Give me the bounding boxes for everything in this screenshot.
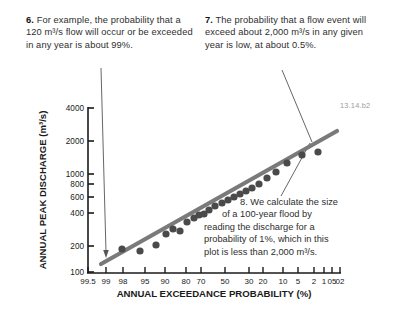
y-axis: 4000 2000 1000 800 600 400 200 100 ANNUA…: [37, 104, 94, 277]
y-tick-label-1000: 1000: [66, 170, 85, 179]
x-tick-label-80: 80: [182, 277, 191, 286]
x-tick-label-70: 70: [197, 277, 206, 286]
x-axis: 99.5 99 98 95 90 80 70 50 30 20 10 5 2 1…: [80, 267, 345, 299]
data-point: [176, 227, 183, 234]
probability-plot: 4000 2000 1000 800 600 400 200 100 ANNUA…: [0, 0, 413, 331]
x-tick-label-99.5: 99.5: [80, 277, 96, 286]
y-tick-label-600: 600: [70, 193, 84, 202]
data-point: [183, 218, 190, 225]
x-tick-label-95: 95: [141, 277, 150, 286]
data-point: [136, 247, 143, 254]
y-tick-label-2000: 2000: [66, 137, 85, 146]
data-point: [169, 225, 176, 232]
data-point: [298, 151, 305, 158]
y-axis-title-text: ANNUAL PEAK DISCHARGE (m³/s): [37, 111, 48, 270]
y-tick-label-400: 400: [70, 209, 84, 218]
y-tick-label-800: 800: [70, 180, 84, 189]
data-point: [283, 159, 290, 166]
y-axis-title: ANNUAL PEAK DISCHARGE (m³/s): [37, 111, 48, 270]
data-point: [248, 184, 255, 191]
data-point: [263, 174, 270, 181]
x-tick-label-10: 10: [279, 277, 288, 286]
trend-line: [101, 131, 337, 264]
x-axis-title-text: ANNUAL EXCEEDANCE PROBABILITY (%): [117, 288, 312, 299]
x-tick-label-90: 90: [161, 277, 170, 286]
x-tick-label-5: 5: [296, 277, 301, 286]
data-point: [118, 245, 125, 252]
x-tick-label-50: 50: [221, 277, 230, 286]
data-point: [255, 180, 262, 187]
x-tick-label-20: 20: [259, 277, 268, 286]
leader-line-callout-7: [282, 70, 312, 142]
x-tick-label-98: 98: [119, 277, 128, 286]
x-tick-label-99: 99: [102, 277, 111, 286]
y-tick-label-200: 200: [70, 242, 84, 251]
data-point: [314, 148, 321, 155]
y-tick-label-4000: 4000: [66, 104, 85, 113]
data-point: [205, 206, 212, 213]
figure-page: 6. For example, the probability that a 1…: [0, 0, 413, 331]
x-axis-title: ANNUAL EXCEEDANCE PROBABILITY (%): [117, 288, 312, 299]
y-tick-label-100: 100: [70, 268, 84, 277]
x-tick-label-02: 02: [336, 277, 345, 286]
data-point: [152, 241, 159, 248]
leader-arrow-callout-6: [103, 250, 109, 258]
leader-line-callout-6: [101, 68, 106, 252]
x-tick-label-1: 1: [322, 277, 327, 286]
x-tick-label-30: 30: [245, 277, 254, 286]
data-point: [211, 202, 218, 209]
x-tick-label-2: 2: [312, 277, 317, 286]
data-point: [272, 168, 279, 175]
data-point: [162, 230, 169, 237]
